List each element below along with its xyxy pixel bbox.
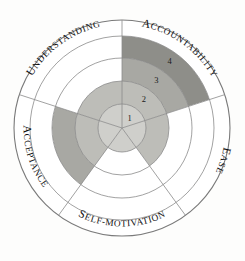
level-number-3: 3 — [154, 75, 158, 85]
level-number-2: 2 — [142, 94, 146, 104]
radial-wheel-diagram: 1234 ACCOUNTABILITYEASESELF-MOTIVATIONAC… — [0, 0, 245, 261]
level-number-1: 1 — [128, 113, 132, 123]
level-number-4: 4 — [167, 56, 172, 66]
wheel-svg: 1234 ACCOUNTABILITYEASESELF-MOTIVATIONAC… — [0, 0, 245, 261]
